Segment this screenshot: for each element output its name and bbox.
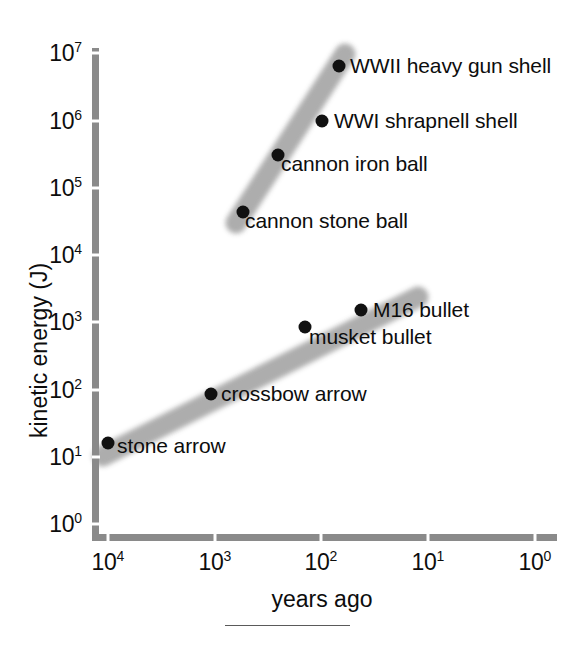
data-point-stone-arrow <box>102 437 115 450</box>
chart-plot-area <box>0 0 574 649</box>
y-tick-label: 101 <box>49 444 82 471</box>
x-axis-title: years ago <box>271 586 372 613</box>
data-point-crossbow-arrow <box>205 388 218 401</box>
caption-divider <box>225 625 350 626</box>
trend-band-projectiles <box>103 297 418 456</box>
y-tick-label: 102 <box>49 377 82 404</box>
y-tick-label: 100 <box>49 511 82 538</box>
data-point-wwi-shrapnell-shell <box>316 115 329 128</box>
trend-band-artillery <box>236 54 345 223</box>
point-label-m16-bullet: M16 bullet <box>373 298 469 322</box>
x-tick-label: 102 <box>305 549 338 576</box>
y-axis-title: kinetic energy (J) <box>26 263 53 438</box>
point-label-cannon-iron-ball: cannon iron ball <box>281 152 428 176</box>
point-label-musket-bullet: musket bullet <box>309 325 431 349</box>
chart-figure: 107 106 105 104 103 102 101 100 104 103 … <box>0 0 574 649</box>
data-point-m16-bullet <box>355 304 368 317</box>
y-tick-label: 104 <box>49 242 82 269</box>
y-tick-label: 107 <box>49 40 82 67</box>
point-label-crossbow-arrow: crossbow arrow <box>221 382 367 406</box>
x-tick-label: 101 <box>412 549 445 576</box>
y-tick-label: 106 <box>49 108 82 135</box>
y-tick-label: 105 <box>49 175 82 202</box>
point-label-stone-arrow: stone arrow <box>117 434 226 458</box>
point-label-cannon-stone-ball: cannon stone ball <box>245 209 408 233</box>
point-label-wwi-shrapnell-shell: WWI shrapnell shell <box>334 109 518 133</box>
x-tick-label: 103 <box>199 549 232 576</box>
x-tick-label: 104 <box>92 549 125 576</box>
y-tick-label: 103 <box>49 309 82 336</box>
x-tick-label: 100 <box>519 549 552 576</box>
point-label-wwii-heavy-gun-shell: WWII heavy gun shell <box>350 54 551 78</box>
data-point-wwii-heavy-gun-shell <box>333 60 346 73</box>
